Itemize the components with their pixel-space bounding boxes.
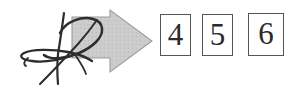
document-canvas: 4 5 6 [0,0,300,89]
box-4-value: 4 [168,19,184,50]
box-6[interactable]: 6 [248,13,284,56]
box-5[interactable]: 5 [202,14,233,56]
box-6-value: 6 [258,18,274,49]
numbered-box-group: 4 5 6 [0,0,300,89]
box-4[interactable]: 4 [160,14,191,56]
box-5-value: 5 [210,19,226,50]
